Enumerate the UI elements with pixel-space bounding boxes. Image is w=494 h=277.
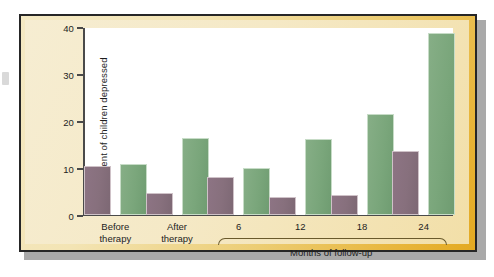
y-axis-tick-label: 40 <box>63 23 74 34</box>
x-axis-label: 12 <box>295 221 306 233</box>
y-axis-tick <box>77 74 83 76</box>
y-axis-tick-label: 20 <box>63 117 74 128</box>
scan-artifact <box>2 72 9 85</box>
x-axis-labels: Months of follow-up BeforetherapyAfterth… <box>85 216 454 260</box>
bar-control <box>367 114 394 214</box>
y-axis-tick <box>77 27 83 29</box>
bar-control <box>305 139 332 214</box>
bar-therapy <box>392 151 419 214</box>
y-axis-tick <box>77 168 83 170</box>
y-axis-tick <box>77 215 83 217</box>
bar-control <box>120 164 147 214</box>
bar-control <box>243 168 270 215</box>
y-axis-tick-label: 10 <box>63 164 74 175</box>
y-axis-tick-label: 0 <box>69 211 74 222</box>
bar-therapy <box>207 177 234 215</box>
x-axis-label: 18 <box>357 221 368 233</box>
x-axis-label: Beforetherapy <box>99 221 131 244</box>
x-axis-label: 6 <box>236 221 241 233</box>
plot-axes-area: 010203040 Percent of children depressed … <box>83 28 453 216</box>
bars-layer <box>85 28 454 215</box>
bar-control <box>428 33 455 214</box>
chart-figure-frame: Children in therapy group Children in co… <box>19 14 477 252</box>
x-axis-label: Aftertherapy <box>161 221 193 244</box>
x-axis-label: 24 <box>418 221 429 233</box>
bar-control <box>182 138 209 214</box>
bar-therapy <box>84 166 111 214</box>
x-axis-bracket-title: Months of follow-up <box>290 247 372 258</box>
y-axis-tick-label: 30 <box>63 70 74 81</box>
y-axis-tick <box>77 121 83 123</box>
bar-therapy <box>331 195 358 214</box>
chart-panel: Children in therapy group Children in co… <box>25 20 469 244</box>
followup-bracket-icon <box>218 238 447 245</box>
bar-therapy <box>146 193 173 214</box>
bar-therapy <box>269 197 296 214</box>
